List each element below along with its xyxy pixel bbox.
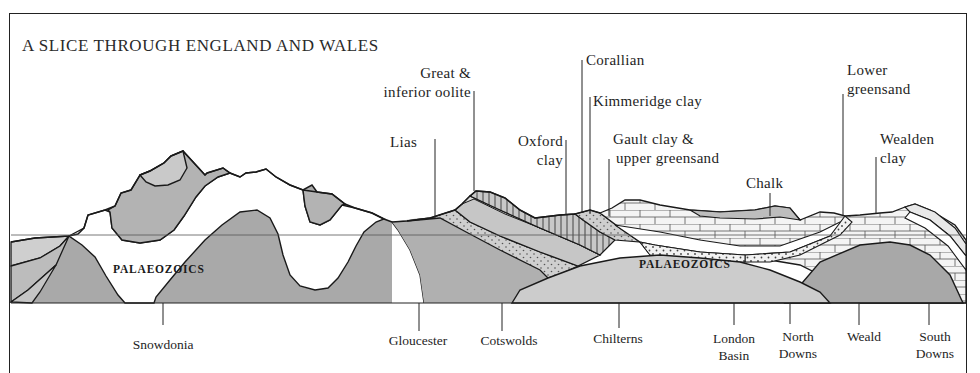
label-palaeozoics-west: PALAEOZOICS bbox=[113, 263, 205, 275]
label-lower-greensand: Lower greensand bbox=[847, 61, 911, 99]
label-wealden-clay: Wealden clay bbox=[880, 130, 934, 168]
label-lias: Lias bbox=[390, 133, 417, 152]
place-leader-lines bbox=[163, 303, 929, 331]
label-corallian: Corallian bbox=[586, 51, 645, 70]
place-london-basin: London Basin bbox=[713, 330, 755, 364]
label-gault-clay: Gault clay & upper greensand bbox=[613, 130, 719, 168]
place-gloucester: Gloucester bbox=[389, 332, 447, 349]
diagram-title: A SLICE THROUGH ENGLAND AND WALES bbox=[22, 36, 379, 56]
label-oolite: Great & inferior oolite bbox=[365, 64, 471, 102]
place-north-downs: North Downs bbox=[779, 328, 817, 362]
label-oxford-clay: Oxford clay bbox=[500, 132, 563, 170]
label-kimmeridge-clay: Kimmeridge clay bbox=[593, 92, 702, 111]
label-chalk: Chalk bbox=[746, 174, 783, 193]
label-palaeozoics-east: PALAEOZOICS bbox=[639, 258, 731, 270]
place-weald: Weald bbox=[847, 328, 881, 345]
place-chilterns: Chilterns bbox=[593, 330, 643, 347]
wales-section bbox=[11, 151, 424, 303]
place-snowdonia: Snowdonia bbox=[133, 336, 194, 353]
place-cotswolds: Cotswolds bbox=[480, 332, 537, 349]
place-south-downs: South Downs bbox=[916, 328, 954, 362]
